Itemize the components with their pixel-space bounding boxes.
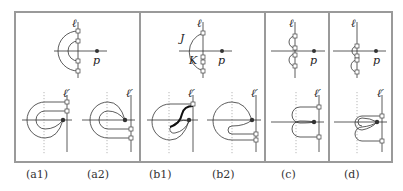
- label-ell: ℓ: [72, 17, 77, 30]
- figure-canvas: ℓ p ℓ′ ℓ′ ℓ J K p: [0, 0, 403, 191]
- diagram-a2: ℓ′: [82, 87, 135, 155]
- group-a-frame: [15, 12, 140, 162]
- label-ell-prime: ℓ′: [314, 87, 322, 100]
- diagram-d: ℓ′: [334, 87, 387, 155]
- diagram-c: ℓ′: [271, 87, 324, 155]
- label-ell: ℓ: [197, 17, 202, 30]
- label-ell-prime: ℓ′: [377, 87, 385, 100]
- label-J: J: [178, 32, 185, 45]
- diagram-b-top: ℓ J K p: [178, 17, 232, 78]
- caption-b2: (b2): [212, 168, 235, 181]
- caption-a1: (a1): [26, 168, 48, 181]
- caption-a2: (a2): [87, 168, 109, 181]
- label-ell-prime: ℓ′: [63, 87, 71, 100]
- label-ell: ℓ: [289, 17, 294, 30]
- label-ell: ℓ: [351, 17, 356, 30]
- label-ell-prime: ℓ′: [188, 87, 196, 100]
- label-K: K: [188, 54, 198, 67]
- label-p: p: [93, 54, 100, 67]
- label-p: p: [310, 54, 317, 67]
- label-p: p: [373, 54, 380, 67]
- caption-d: (d): [344, 168, 360, 181]
- diagram-d-top: ℓ p: [333, 17, 386, 78]
- diagram-a-top: ℓ p: [54, 17, 107, 78]
- caption-c: (c): [281, 168, 296, 181]
- label-p: p: [218, 54, 225, 67]
- diagram-b1: ℓ′: [147, 87, 198, 155]
- caption-b1: (b1): [149, 168, 172, 181]
- label-ell-prime: ℓ′: [251, 87, 259, 100]
- diagram-a1: ℓ′: [22, 87, 72, 155]
- label-ell-prime: ℓ′: [126, 87, 134, 100]
- diagram-b2: ℓ′: [207, 87, 261, 155]
- diagram-c-top: ℓ p: [271, 17, 325, 78]
